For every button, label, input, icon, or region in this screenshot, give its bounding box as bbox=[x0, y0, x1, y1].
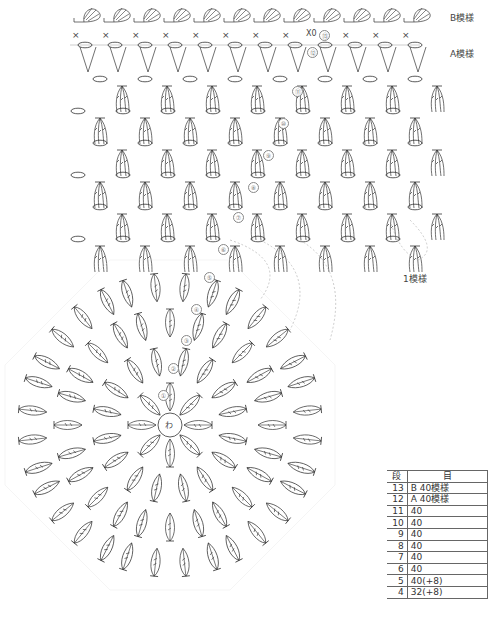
table-row: 640 bbox=[387, 563, 488, 575]
row-marker-13: ⑬ bbox=[319, 30, 330, 41]
table-row: 1140 bbox=[387, 505, 488, 517]
row-marker-5: ⑤ bbox=[204, 272, 215, 283]
stitch-count-table: 段 目 13B 40模様 12A 40模様 1140 1040 940 840 … bbox=[387, 470, 488, 599]
row-marker-1: ① bbox=[158, 390, 169, 401]
row-number: 12 bbox=[387, 494, 407, 506]
b-pattern-row: ×××× ×××× ××× bbox=[72, 8, 430, 40]
table-row: 740 bbox=[387, 552, 488, 564]
svg-text:×: × bbox=[282, 30, 290, 40]
row-number: 10 bbox=[387, 517, 407, 529]
row-13-start-mark: X0 bbox=[306, 29, 317, 38]
header-stitches: 目 bbox=[407, 471, 487, 483]
stitch-count: 40 bbox=[407, 517, 487, 529]
stitch-count: B 40模様 bbox=[407, 482, 487, 494]
row-number: 11 bbox=[387, 505, 407, 517]
row-marker-4: ④ bbox=[191, 304, 202, 315]
table-row: 840 bbox=[387, 540, 488, 552]
svg-text:×: × bbox=[342, 30, 350, 40]
row-number: 8 bbox=[387, 540, 407, 552]
header-row: 段 bbox=[387, 471, 407, 483]
row-number: 13 bbox=[387, 482, 407, 494]
svg-text:×: × bbox=[372, 30, 380, 40]
row-marker-3: ③ bbox=[181, 335, 192, 346]
row-number: 7 bbox=[387, 552, 407, 564]
one-repeat-label: 1模様 bbox=[403, 272, 427, 285]
row-marker-8: ⑧ bbox=[248, 182, 259, 193]
table-row: 12A 40模様 bbox=[387, 494, 488, 506]
stitch-count: 40 bbox=[407, 540, 487, 552]
svg-text:×: × bbox=[252, 30, 260, 40]
stitch-count: 40 bbox=[407, 505, 487, 517]
svg-text:×: × bbox=[132, 30, 140, 40]
stitch-count: 40 bbox=[407, 563, 487, 575]
stitch-count: 32(+8) bbox=[407, 586, 487, 598]
row-marker-10: ⑩ bbox=[278, 118, 289, 129]
svg-text:×: × bbox=[192, 30, 200, 40]
svg-text:×: × bbox=[102, 30, 110, 40]
pattern-b-label: B模様 bbox=[450, 11, 474, 24]
table-row: 13B 40模様 bbox=[387, 482, 488, 494]
row-number: 9 bbox=[387, 528, 407, 540]
a-pattern-row bbox=[70, 42, 426, 72]
row-marker-11: ⑪ bbox=[292, 86, 303, 97]
stitch-count: 40 bbox=[407, 552, 487, 564]
table-header-row: 段 目 bbox=[387, 471, 488, 483]
row-number: 5 bbox=[387, 575, 407, 587]
table-row: 1040 bbox=[387, 517, 488, 529]
row-number: 4 bbox=[387, 586, 407, 598]
svg-text:×: × bbox=[402, 30, 410, 40]
row-marker-12: ⑫ bbox=[307, 47, 318, 58]
center-ring-label: わ bbox=[165, 419, 173, 430]
row-marker-2: ② bbox=[168, 363, 179, 374]
table-row: 540(+8) bbox=[387, 575, 488, 587]
row-marker-9: ⑨ bbox=[263, 150, 274, 161]
svg-text:×: × bbox=[162, 30, 170, 40]
row-number: 6 bbox=[387, 563, 407, 575]
table-row: 432(+8) bbox=[387, 586, 488, 598]
stitch-count: A 40模様 bbox=[407, 494, 487, 506]
stitch-count: 40(+8) bbox=[407, 575, 487, 587]
rect-body bbox=[71, 76, 444, 272]
pattern-a-label: A模様 bbox=[450, 47, 474, 60]
row-marker-7: ⑦ bbox=[233, 212, 244, 223]
svg-text:×: × bbox=[72, 30, 80, 40]
table-row: 940 bbox=[387, 528, 488, 540]
stitch-count: 40 bbox=[407, 528, 487, 540]
svg-text:×: × bbox=[222, 30, 230, 40]
row-marker-6: ⑥ bbox=[218, 244, 229, 255]
